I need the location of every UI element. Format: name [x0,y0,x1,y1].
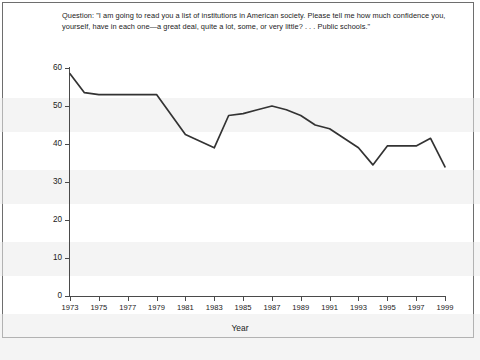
figure-container: Question: "I am going to read you a list… [0,0,480,360]
series-plot [0,0,480,360]
series-line-confidence [70,74,445,167]
